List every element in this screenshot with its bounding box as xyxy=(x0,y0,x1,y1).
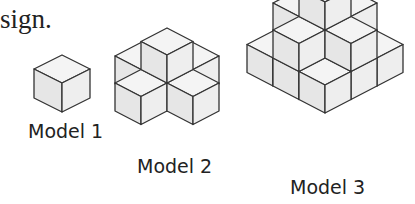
model-1-cubes xyxy=(34,55,90,112)
model-2-label: Model 2 xyxy=(137,155,212,177)
model-2-cubes xyxy=(115,28,219,125)
model-3-label: Model 3 xyxy=(290,176,365,198)
model-3-cubes xyxy=(247,0,403,113)
model-1-label: Model 1 xyxy=(28,120,103,142)
